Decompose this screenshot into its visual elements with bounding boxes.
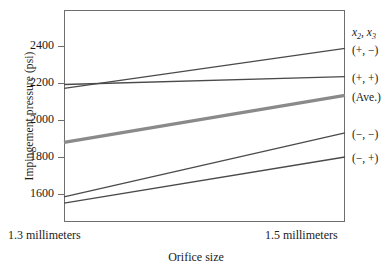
legend-header: x2, x3 bbox=[352, 26, 376, 41]
series-line bbox=[64, 157, 345, 203]
series-line bbox=[64, 77, 345, 85]
x-axis-title: Orifice size bbox=[0, 250, 392, 265]
x-tick-label-left: 1.3 millimeters bbox=[8, 228, 81, 243]
series-line bbox=[64, 48, 345, 88]
series-label-minus-minus: (−, −) bbox=[352, 128, 378, 140]
x-tick-label-right: 1.5 millimeters bbox=[265, 228, 338, 243]
legend-header-sub-3: 3 bbox=[372, 32, 376, 41]
chart-figure: Impingement pressure (psi) 2400220020001… bbox=[0, 0, 392, 273]
series-label-plus-minus: (+, −) bbox=[352, 44, 378, 56]
series-label-minus-plus: (−, +) bbox=[352, 152, 378, 164]
legend-header-mid: , x bbox=[361, 26, 372, 38]
series-label-plus-plus: (+, +) bbox=[352, 72, 378, 84]
series-label-average: (Ave.) bbox=[352, 91, 381, 103]
series-line bbox=[64, 95, 345, 142]
series-line bbox=[64, 133, 345, 197]
